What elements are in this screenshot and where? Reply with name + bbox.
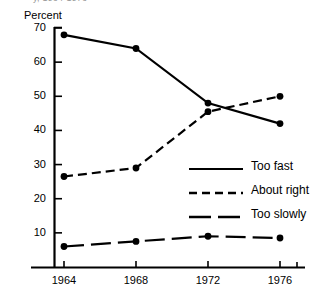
x-tick-label: 1976 (257, 275, 303, 286)
y-tick-label: 60 (20, 56, 46, 67)
legend-label-about-right: About right (251, 184, 309, 197)
plot-area (0, 0, 320, 301)
y-tick-label: 50 (20, 90, 46, 101)
legend-label-too-slowly: Too slowly (251, 208, 306, 221)
y-tick-label: 10 (20, 227, 46, 238)
y-tick-label: 70 (20, 22, 46, 33)
legend-swatch-solid-icon (188, 165, 244, 173)
data-point-marker (277, 93, 284, 100)
legend-swatch-dashed-icon (188, 189, 244, 197)
data-point-marker (61, 173, 68, 180)
data-point-marker (133, 238, 140, 245)
data-series-layer (61, 31, 284, 249)
data-point-marker (61, 31, 68, 38)
series-line-about-right (64, 96, 280, 176)
data-point-marker (205, 108, 212, 115)
data-point-marker (133, 45, 140, 52)
series-line-too-fast (64, 35, 280, 124)
x-tick-label: 1972 (185, 275, 231, 286)
y-tick-label: 40 (20, 124, 46, 135)
y-tick-label: 20 (20, 193, 46, 204)
data-point-marker (277, 235, 284, 242)
data-point-marker (205, 100, 212, 107)
data-point-marker (205, 233, 212, 240)
x-tick-label: 1968 (113, 275, 159, 286)
axis-lines (31, 27, 305, 268)
y-tick-label: 30 (20, 159, 46, 170)
data-point-marker (277, 120, 284, 127)
legend-label-too-fast: Too fast (251, 160, 293, 173)
data-point-marker (61, 243, 68, 250)
data-point-marker (133, 165, 140, 172)
legend-swatch-long-dash-icon (188, 213, 244, 221)
series-line-too-slowly (64, 236, 280, 246)
chart-figure: y, 1964-1976 Percent 10203040506070 1964… (0, 0, 320, 301)
x-tick-label: 1964 (41, 275, 87, 286)
